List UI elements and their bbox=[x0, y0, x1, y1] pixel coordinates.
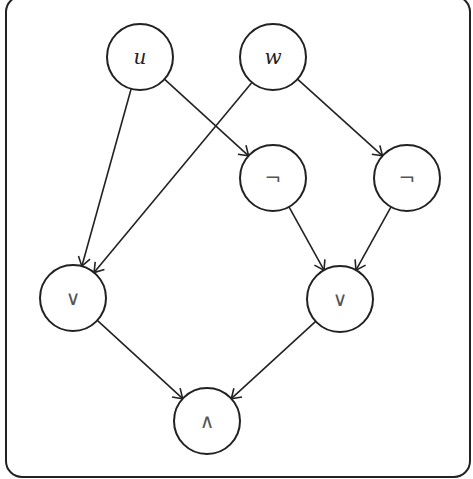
node-label: ¬ bbox=[265, 166, 282, 190]
edge-u-to-or1 bbox=[78, 89, 131, 266]
edge-not1-to-or2 bbox=[289, 207, 325, 270]
edge-w-to-not2 bbox=[297, 79, 382, 156]
node-label: ∨ bbox=[66, 286, 81, 310]
edge-line bbox=[231, 321, 315, 398]
edge-w-to-or1 bbox=[94, 82, 252, 272]
edge-or1-to-and1 bbox=[97, 320, 182, 398]
node-label: ¬ bbox=[399, 166, 416, 190]
node-u: u bbox=[107, 24, 173, 90]
edge-line bbox=[82, 89, 131, 266]
node-label: ∧ bbox=[200, 409, 215, 433]
node-and1: ∧ bbox=[174, 388, 240, 454]
node-label: u bbox=[134, 45, 147, 69]
edge-line bbox=[356, 207, 391, 270]
node-not1: ¬ bbox=[240, 145, 306, 211]
edge-line bbox=[164, 79, 248, 156]
edge-not2-to-or2 bbox=[355, 207, 391, 270]
node-label: ∨ bbox=[333, 287, 348, 311]
edge-line bbox=[289, 207, 324, 270]
node-or1: ∨ bbox=[40, 265, 106, 331]
edge-or2-to-and1 bbox=[231, 321, 315, 398]
diagram-frame bbox=[6, 0, 470, 477]
edge-u-to-not1 bbox=[164, 79, 248, 156]
node-not2: ¬ bbox=[374, 145, 440, 211]
node-or2: ∨ bbox=[307, 266, 373, 332]
nodes-group: uw¬¬∨∨∧ bbox=[40, 24, 440, 454]
node-label: w bbox=[264, 45, 281, 69]
edge-line bbox=[297, 79, 382, 156]
edge-line bbox=[94, 82, 252, 272]
edges-group bbox=[78, 79, 391, 399]
circuit-diagram: uw¬¬∨∨∧ bbox=[0, 0, 473, 479]
edge-line bbox=[97, 320, 182, 398]
node-w: w bbox=[240, 24, 306, 90]
